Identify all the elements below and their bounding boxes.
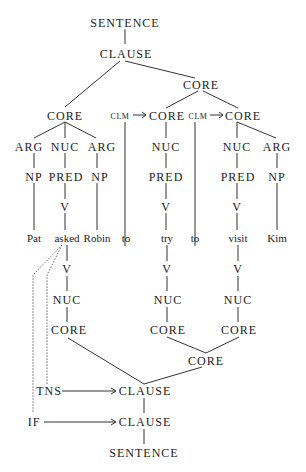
node-core-left: CORE	[47, 109, 83, 123]
node-core-3b: CORE	[221, 323, 257, 337]
word-pat: Pat	[27, 232, 41, 244]
node-v-2b: V	[162, 262, 172, 276]
word-to-1: to	[122, 232, 131, 244]
node-if: IF	[28, 415, 41, 429]
node-nuc-2b: NUC	[154, 293, 182, 307]
node-sentence-top: SENTENCE	[90, 16, 159, 30]
node-nuc-3: NUC	[223, 140, 251, 154]
node-pred-2: PRED	[149, 170, 184, 184]
node-clause-top: CLAUSE	[100, 47, 153, 61]
node-v-2: V	[161, 200, 171, 214]
node-np-1: NP	[25, 170, 42, 184]
node-core-mid1: CORE	[149, 109, 185, 123]
node-clm-1: CLM	[111, 112, 130, 121]
node-clm-2: CLM	[189, 112, 208, 121]
node-core-right: CORE	[183, 78, 219, 92]
node-clause-if: CLAUSE	[119, 415, 172, 429]
node-v-3b: V	[233, 262, 243, 276]
word-kim: Kim	[267, 232, 287, 244]
word-visit: visit	[229, 232, 248, 244]
node-tns: TNS	[36, 384, 62, 398]
node-nuc-1: NUC	[51, 140, 79, 154]
syntax-tree-diagram: SENTENCE CLAUSE CORE CORE CLM CORE CLM C…	[0, 0, 306, 472]
node-core-merge: CORE	[188, 354, 224, 368]
node-v-1: V	[60, 200, 70, 214]
node-pred-3: PRED	[221, 170, 256, 184]
tree-nodes: SENTENCE CLAUSE CORE CORE CLM CORE CLM C…	[15, 16, 291, 460]
node-nuc-1b: NUC	[53, 293, 81, 307]
node-arg-1: ARG	[15, 140, 43, 154]
node-core-mid2: CORE	[225, 109, 261, 123]
node-core-1b: CORE	[51, 323, 87, 337]
node-core-2b: CORE	[150, 323, 186, 337]
node-np-3: NP	[268, 170, 285, 184]
word-robin: Robin	[84, 232, 111, 244]
node-v-1b: V	[62, 262, 72, 276]
node-arg-2: ARG	[88, 140, 116, 154]
node-clause-tns: CLAUSE	[119, 384, 172, 398]
node-v-3: V	[232, 200, 242, 214]
node-sentence-bottom: SENTENCE	[109, 446, 178, 460]
node-arg-3: ARG	[263, 140, 291, 154]
node-np-2: NP	[91, 170, 108, 184]
word-asked: asked	[54, 232, 80, 244]
word-to-2: to	[191, 232, 200, 244]
node-nuc-2: NUC	[152, 140, 180, 154]
node-pred-1: PRED	[49, 170, 84, 184]
node-nuc-3b: NUC	[224, 293, 252, 307]
word-try: try	[161, 232, 174, 244]
